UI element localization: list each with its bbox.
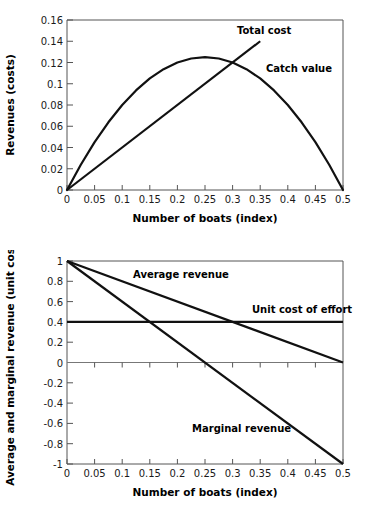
chart-1-canvas: Revenues (costs) 0 0.02 0.04 0.06 0.08 0… (0, 0, 371, 250)
x-tick-label: 0.45 (304, 194, 326, 205)
y-tick-label: 1 (57, 256, 63, 267)
chart-1-annotation-total-cost: Total cost (237, 25, 292, 36)
y-tick-label: 0.16 (41, 15, 63, 26)
x-tick-label: 0.5 (335, 468, 351, 479)
chart-1-series-catch-value (67, 57, 343, 190)
chart-1-x-tickmarks (67, 185, 343, 190)
figure-page: Revenues (costs) 0 0.02 0.04 0.06 0.08 0… (0, 0, 371, 515)
y-tick-label: 0.1 (47, 79, 63, 90)
y-tick-label: 0.6 (47, 297, 63, 308)
chart-2-annotation-marginal-revenue: Marginal revenue (192, 423, 291, 434)
y-tick-label: 0.4 (47, 317, 63, 328)
chart-1-y-tick-labels: 0 0.02 0.04 0.06 0.08 0.1 0.12 0.14 0.16 (41, 15, 63, 196)
y-tick-label: -0.2 (43, 378, 63, 389)
y-tick-label: 0.04 (41, 143, 63, 154)
x-tick-label: 0.15 (139, 194, 161, 205)
y-tick-label: 0.14 (41, 36, 63, 47)
x-tick-label: 0.1 (114, 468, 130, 479)
chart-average-marginal-revenue: Average and marginal revenue (unit cost)… (0, 250, 371, 515)
x-tick-label: 0.1 (114, 194, 130, 205)
x-tick-label: 0.2 (169, 194, 185, 205)
x-tick-label: 0.2 (169, 468, 185, 479)
chart-total-cost-catch-value: Revenues (costs) 0 0.02 0.04 0.06 0.08 0… (0, 0, 371, 250)
x-tick-label: 0.4 (280, 468, 296, 479)
chart-2-x-tickmarks (67, 459, 343, 464)
y-tick-label: -0.4 (43, 398, 63, 409)
x-tick-label: 0.45 (304, 468, 326, 479)
chart-2-annotation-unit-cost-of-effort: Unit cost of effort (252, 304, 352, 315)
chart-2-x-axis-title: Number of boats (index) (133, 486, 278, 498)
chart-2-y-axis-title: Average and marginal revenue (unit cost) (4, 250, 16, 486)
chart-1-series-total-cost (67, 41, 260, 190)
x-tick-label: 0.25 (194, 194, 216, 205)
y-tick-label: 0.06 (41, 121, 63, 132)
x-tick-label: 0.15 (139, 468, 161, 479)
chart-2-annotation-average-revenue: Average revenue (133, 269, 229, 280)
chart-1-plot-frame (67, 20, 343, 190)
x-tick-label: 0.05 (83, 194, 105, 205)
y-tick-label: 0.8 (47, 276, 63, 287)
y-tick-label: 0 (57, 185, 63, 196)
chart-2-x-tick-labels: 0 0.05 0.1 0.15 0.2 0.25 0.3 0.35 0.4 0.… (64, 468, 351, 479)
y-tick-label: 0 (57, 358, 63, 369)
chart-1-y-tickmarks (67, 20, 73, 190)
y-tick-label: 0.08 (41, 100, 63, 111)
chart-1-x-axis-title: Number of boats (index) (133, 212, 278, 224)
chart-1-y-axis-title: Revenues (costs) (4, 54, 16, 156)
chart-2-y-tick-labels: 1 0.8 0.6 0.4 0.2 0 -0.2 -0.4 -0.6 -0.8 … (43, 256, 63, 470)
x-tick-label: 0.4 (280, 194, 296, 205)
y-tick-label: 0.12 (41, 58, 63, 69)
x-tick-label: 0 (64, 468, 70, 479)
x-tick-label: 0.35 (249, 468, 271, 479)
y-tick-label: 0.2 (47, 337, 63, 348)
y-tick-label: -0.8 (43, 439, 63, 450)
x-tick-label: 0.05 (83, 468, 105, 479)
y-tick-label: -0.6 (43, 418, 63, 429)
y-tick-label: 0.02 (41, 164, 63, 175)
y-tick-label: -1 (53, 459, 63, 470)
x-tick-label: 0.25 (194, 468, 216, 479)
x-tick-label: 0.35 (249, 194, 271, 205)
chart-2-canvas: Average and marginal revenue (unit cost)… (0, 250, 371, 515)
x-tick-label: 0 (64, 194, 70, 205)
x-tick-label: 0.3 (225, 194, 241, 205)
x-tick-label: 0.5 (335, 194, 351, 205)
chart-1-annotation-catch-value: Catch value (266, 63, 332, 74)
chart-1-x-tick-labels: 0 0.05 0.1 0.15 0.2 0.25 0.3 0.35 0.4 0.… (64, 194, 351, 205)
x-tick-label: 0.3 (225, 468, 241, 479)
